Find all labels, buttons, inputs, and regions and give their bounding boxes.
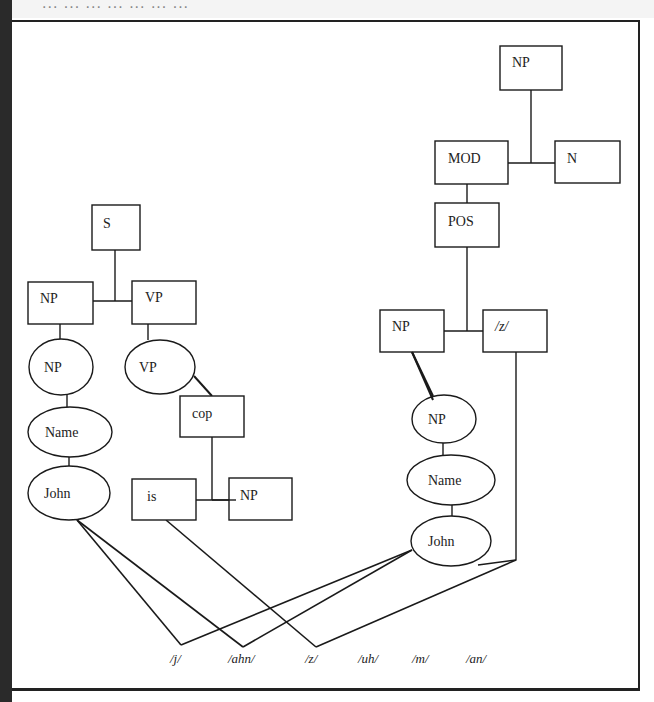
label-cop: cop (192, 406, 212, 421)
label-Name: Name (45, 425, 78, 440)
phoneme-row: /j/ /ahn/ /z/ /uh/ /m/ /an/ (169, 651, 488, 666)
node-POS: POS (435, 203, 499, 247)
node-is-box: is (132, 479, 196, 520)
node-NP-ellipse-right: NP (412, 395, 476, 443)
node-John-ellipse-right: John (411, 516, 491, 566)
label-is: is (147, 489, 156, 504)
phoneme-z: /z/ (304, 651, 319, 666)
label-MOD: MOD (448, 151, 481, 166)
node-John-ellipse-left: John (28, 466, 110, 520)
phoneme-ahn: /ahn/ (227, 651, 256, 666)
phoneme-an: /an/ (465, 651, 488, 666)
node-cop-box: cop (180, 396, 244, 437)
label-NP-top: NP (512, 55, 530, 70)
node-NP-box-left: NP (28, 282, 93, 324)
node-Name-ellipse-left: Name (28, 407, 112, 457)
label-z: /z/ (494, 319, 509, 334)
label-N: N (567, 151, 577, 166)
label-NP-ellipse: NP (44, 360, 62, 375)
node-MOD: MOD (435, 141, 508, 184)
phoneme-m: /m/ (411, 651, 430, 666)
label-VP-ellipse: VP (139, 360, 157, 375)
node-S: S (92, 205, 140, 250)
label-S: S (103, 216, 111, 231)
label-NP-right: NP (392, 319, 410, 334)
label-NP: NP (40, 291, 58, 306)
label-Name-right: Name (428, 473, 461, 488)
node-VP-ellipse: VP (125, 340, 195, 394)
label-POS: POS (448, 214, 474, 229)
parse-tree-diagram: S NP VP NP VP Name John cop is NP NP (0, 0, 654, 702)
np-box-to-ellipse-edge (412, 352, 433, 400)
label-John-right: John (428, 534, 454, 549)
label-VP: VP (145, 290, 163, 305)
label-NP-obj: NP (240, 488, 258, 503)
node-NP-obj-box: NP (229, 478, 292, 520)
label-NP-ellipse-right: NP (428, 412, 446, 427)
phoneme-j: /j/ (169, 651, 182, 666)
node-z-box: /z/ (483, 310, 547, 352)
label-John: John (44, 486, 70, 501)
node-NP-top: NP (500, 46, 562, 90)
node-N: N (555, 141, 620, 183)
node-NP-ellipse-left: NP (29, 339, 93, 395)
node-Name-ellipse-right: Name (407, 455, 495, 505)
node-NP-box-right: NP (380, 310, 444, 352)
phoneme-uh: /uh/ (357, 651, 380, 666)
node-VP-box: VP (132, 281, 196, 324)
